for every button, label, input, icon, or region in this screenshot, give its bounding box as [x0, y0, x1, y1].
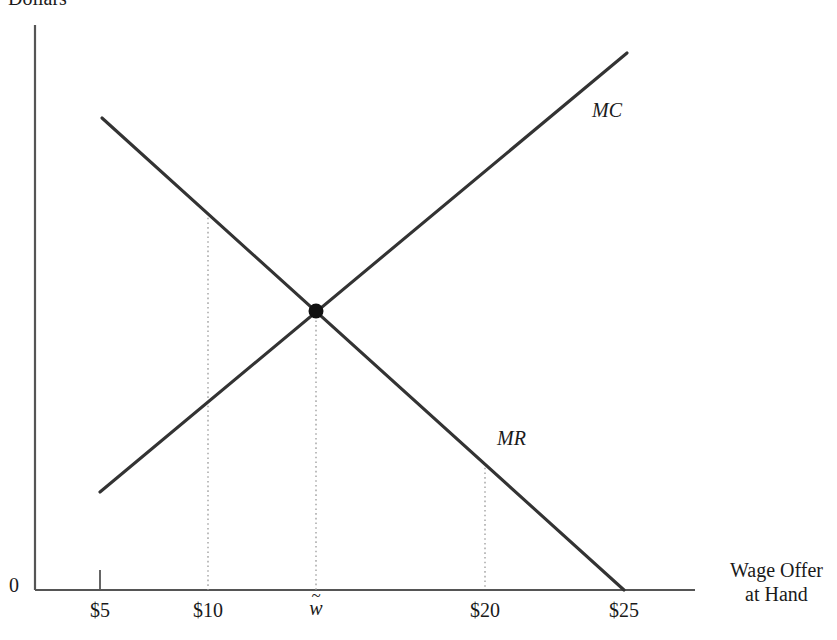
- tick-label-5: $5: [90, 600, 110, 622]
- tick-label-25: $25: [609, 600, 639, 622]
- tick-label-10: $10: [193, 600, 223, 622]
- tilde-accent: ~: [311, 587, 320, 605]
- y-axis-title: Dollars: [8, 0, 67, 10]
- x-axis-title-line-2: at Hand: [730, 582, 823, 606]
- curve-mc: [100, 53, 627, 492]
- tick-label-w-tilde: ~w: [309, 598, 322, 620]
- economics-figure: Dollars 0 $5 $10 ~w $20 $25 MC MR Wage O…: [0, 0, 837, 640]
- tick-label-20: $20: [470, 600, 500, 622]
- w-tilde-glyph: ~w: [309, 598, 322, 620]
- curve-label-mr: MR: [497, 428, 526, 450]
- plot-canvas: [0, 0, 837, 640]
- curve-label-mc: MC: [592, 100, 622, 122]
- equilibrium-point-marker: [309, 304, 324, 319]
- x-axis-title: Wage Offer at Hand: [730, 558, 823, 607]
- curve-mr: [102, 118, 624, 590]
- x-axis-title-line-1: Wage Offer: [730, 558, 823, 582]
- origin-label: 0: [9, 575, 19, 597]
